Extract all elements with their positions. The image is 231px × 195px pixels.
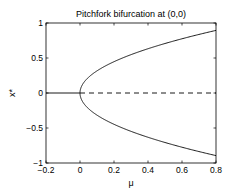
chart: Pitchfork bifurcation at (0,0) −0.200.20… xyxy=(0,0,231,195)
y-axis-label: x* xyxy=(7,89,17,98)
series-line-lower-stable-branch xyxy=(80,93,216,156)
x-axis-label: μ xyxy=(128,178,133,188)
y-tick-label: −0.5 xyxy=(26,123,43,133)
x-axis: −0.200.20.40.60.8 xyxy=(38,23,223,175)
y-tick-label: −1 xyxy=(33,158,43,168)
x-tick-label: 0.8 xyxy=(210,165,222,175)
series-line-upper-stable-branch xyxy=(80,30,216,93)
y-tick-label: 0.5 xyxy=(31,53,43,63)
y-tick-label: 0 xyxy=(38,88,43,98)
series-group xyxy=(46,30,216,155)
y-tick-label: 1 xyxy=(38,18,43,28)
x-tick-label: 0.6 xyxy=(176,165,188,175)
x-tick-label: 0 xyxy=(78,165,83,175)
chart-title: Pitchfork bifurcation at (0,0) xyxy=(76,9,186,19)
x-tick-label: 0.4 xyxy=(142,165,154,175)
x-tick-label: 0.2 xyxy=(108,165,120,175)
